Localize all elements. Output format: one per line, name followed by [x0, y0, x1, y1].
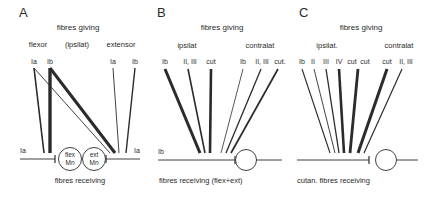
fibre-contra-ib	[221, 69, 243, 153]
fibre-ipsi-cut	[350, 69, 358, 153]
fibre-ipsi-ib	[165, 69, 200, 153]
input-label-contra-ii-iii: II, III	[255, 58, 269, 65]
panel-letter-b: B	[157, 5, 166, 20]
ext-mn-label-2: Mn	[89, 159, 98, 166]
group-label-contralat: contralat	[385, 41, 415, 50]
fibre-flexor-ia-to-flex	[34, 68, 44, 153]
neural-convergence-diagram: A fibres giving flexor (ipsilat) extenso…	[0, 0, 440, 199]
panel-c-footer: cutan. fibres receiving	[297, 176, 370, 185]
group-label-contralat: contralat	[246, 41, 276, 50]
input-label-flexor-ia: Ia	[31, 58, 37, 65]
input-label-extensor-ib: Ib	[132, 58, 138, 65]
panel-b-title: fibres giving	[201, 23, 244, 32]
input-label-iv: IV	[336, 58, 343, 65]
fibre-iii	[326, 69, 339, 153]
fibre-contra-cut	[231, 69, 278, 153]
left-input-label-ib: Ib	[158, 148, 164, 155]
fibre-ib	[302, 69, 330, 153]
fibre-ipsi-ii-iii	[188, 69, 205, 153]
panel-a-footer: fibres receiving	[55, 176, 105, 185]
ext-mn-label-1: ext	[90, 151, 99, 158]
group-label-ipsilat: ipsilat	[177, 41, 197, 50]
input-label-extensor-ia: Ia	[110, 58, 116, 65]
input-label-flexor-ib: Ib	[47, 58, 53, 65]
panel-c-title: fibres giving	[340, 23, 383, 32]
fibre-iv	[339, 69, 344, 153]
input-label-ipsi-ib: Ib	[162, 58, 168, 65]
interneuron	[236, 150, 257, 171]
panel-letter-a: A	[19, 5, 28, 20]
input-label-iii: III	[323, 58, 329, 65]
group-label-ipsilat: ipsilat.	[316, 41, 337, 50]
group-label-flexor: flexor	[29, 40, 48, 49]
left-input-label-ia: Ia	[20, 147, 26, 154]
right-input-label-ia: Ia	[134, 147, 140, 154]
group-label-extensor: extensor	[107, 40, 136, 49]
input-label-ii: II	[311, 58, 315, 65]
input-label-contra-ib: Ib	[240, 58, 246, 65]
fibre-flexor-ia-to-ext	[34, 68, 110, 153]
panel-letter-c: C	[299, 5, 308, 20]
input-label-ipsi-cut-2: cut	[360, 58, 369, 65]
fibre-contra-ii-iii	[226, 69, 261, 153]
interneuron	[376, 150, 397, 171]
panel-b-footer: fibres receiving (flex+ext)	[159, 176, 243, 185]
figure: A fibres giving flexor (ipsilat) extenso…	[0, 0, 440, 199]
input-label-contra-cut: cut	[382, 58, 391, 65]
input-label-contra-cut: cut.	[274, 58, 285, 65]
flex-mn-label-2: Mn	[65, 159, 74, 166]
input-label-ipsi-cut: cut	[206, 58, 215, 65]
group-label-ipsilat: (ipsilat)	[65, 40, 90, 49]
fibre-ipsi-cut	[210, 69, 211, 153]
fibre-extensor-ia	[113, 68, 119, 153]
input-label-ipsi-ii-iii: II, III	[183, 58, 197, 65]
panel-c: C fibres giving ipsilat. contralat Ib II…	[297, 5, 418, 185]
fibre-extensor-ib	[126, 68, 135, 153]
input-label-ib: Ib	[299, 58, 305, 65]
input-label-contra-ii-iii: II, III	[399, 58, 413, 65]
input-label-ipsi-cut-1: cut	[347, 58, 356, 65]
panel-a: A fibres giving flexor (ipsilat) extenso…	[19, 5, 140, 185]
panel-b: B fibres giving ipsilat contralat Ib II,…	[157, 5, 286, 185]
panel-a-title: fibres giving	[57, 23, 100, 32]
fibre-flexor-ib-to-ext	[50, 68, 115, 153]
flex-mn-label-1: flex	[65, 151, 76, 158]
